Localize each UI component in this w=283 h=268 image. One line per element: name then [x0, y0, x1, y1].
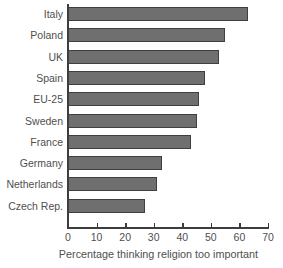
bar-italy	[68, 7, 248, 21]
x-tick-mark-50	[211, 223, 212, 228]
category-label-spain: Spain	[0, 71, 63, 85]
category-label-netherlands: Netherlands	[0, 177, 63, 191]
bar-rect	[68, 92, 199, 106]
bar-rect	[68, 199, 145, 213]
x-tick-label-10: 10	[82, 231, 112, 244]
x-tick-mark-20	[125, 223, 126, 228]
x-tick-label-20: 20	[110, 231, 140, 244]
bar-czech-rep	[68, 199, 145, 213]
bar-uk	[68, 50, 219, 64]
category-label-germany: Germany	[0, 156, 63, 170]
bar-netherlands	[68, 177, 157, 191]
bar-rect	[68, 114, 197, 128]
category-label-uk: UK	[0, 50, 63, 64]
x-tick-mark-0	[68, 223, 69, 228]
bar-rect	[68, 71, 205, 85]
category-label-italy: Italy	[0, 7, 63, 21]
bar-rect	[68, 7, 248, 21]
x-tick-label-30: 30	[139, 231, 169, 244]
bar-chart: ItalyPolandUKSpainEU-25SwedenFranceGerma…	[0, 0, 283, 268]
x-tick-mark-40	[182, 223, 183, 228]
bar-germany	[68, 156, 162, 170]
category-label-sweden: Sweden	[0, 114, 63, 128]
x-tick-mark-30	[154, 223, 155, 228]
bar-rect	[68, 28, 225, 42]
bar-rect	[68, 177, 157, 191]
category-label-france: France	[0, 135, 63, 149]
x-axis-title: Percentage thinking religion too importa…	[0, 248, 283, 260]
bar-spain	[68, 71, 205, 85]
category-label-eu-25: EU-25	[0, 92, 63, 106]
x-tick-label-70: 70	[253, 231, 283, 244]
bar-france	[68, 135, 191, 149]
bar-poland	[68, 28, 225, 42]
x-tick-mark-70	[268, 223, 269, 228]
category-label-poland: Poland	[0, 28, 63, 42]
x-tick-mark-60	[239, 223, 240, 228]
bar-rect	[68, 156, 162, 170]
bar-rect	[68, 50, 219, 64]
x-tick-label-50: 50	[196, 231, 226, 244]
x-tick-label-0: 0	[53, 231, 83, 244]
bar-eu-25	[68, 92, 199, 106]
bar-rect	[68, 135, 191, 149]
x-tick-mark-10	[97, 223, 98, 228]
bar-sweden	[68, 114, 197, 128]
x-tick-label-40: 40	[167, 231, 197, 244]
category-label-czech-rep: Czech Rep.	[0, 199, 63, 213]
x-tick-label-60: 60	[224, 231, 254, 244]
